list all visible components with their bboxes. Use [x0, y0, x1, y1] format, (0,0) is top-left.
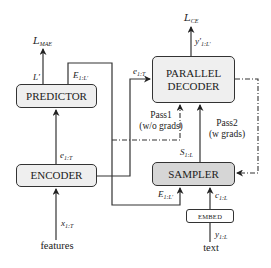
e-encoder-label: e1:T	[60, 150, 72, 161]
predictor-label: PREDICTOR	[26, 90, 87, 103]
sampler-box: SAMPLER	[152, 162, 235, 186]
parallel-decoder-box: PARALLEL DECODER	[152, 56, 235, 103]
predictor-box: PREDICTOR	[16, 84, 97, 108]
e-sampler-label: E1:L′	[158, 189, 173, 200]
encoder-box: ENCODER	[16, 164, 97, 187]
features-label: features	[32, 240, 82, 251]
embed-box: EMBED	[186, 209, 234, 223]
loss-mae-label: LMAE	[33, 35, 52, 47]
x-label: x1:T	[61, 218, 73, 229]
pass2-label: Pass2 (w grads)	[204, 118, 250, 140]
y-input-label: y1:L	[215, 229, 227, 240]
parallel-decoder-label-line2: DECODER	[168, 80, 220, 93]
pass1-label: Pass1 (w/o grads)	[136, 110, 186, 132]
text-label: text	[196, 242, 226, 253]
parallel-decoder-label-line1: PARALLEL	[166, 67, 221, 80]
e-decoder-label: e1:T	[133, 66, 145, 77]
sampler-label: SAMPLER	[168, 168, 219, 181]
s-label: S1:L	[180, 147, 193, 158]
l-prime-label: L′	[33, 72, 40, 82]
loss-ce-label: LCE	[184, 12, 198, 24]
embed-label: EMBED	[198, 210, 222, 223]
encoder-label: ENCODER	[31, 169, 83, 182]
c-label: c1:L	[215, 190, 227, 201]
e-predictor-label: E1:L′	[73, 70, 88, 81]
y-output-label: y′1:L′	[195, 36, 211, 47]
